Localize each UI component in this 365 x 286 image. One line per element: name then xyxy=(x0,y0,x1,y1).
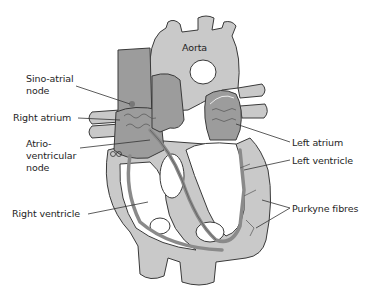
label-atrio-line2: ventricular xyxy=(26,150,76,162)
label-left-atrium: Left atrium xyxy=(292,137,343,149)
pulmonary-vein xyxy=(240,104,267,118)
label-left-ventricle: Left ventricle xyxy=(292,155,353,167)
left-atrium xyxy=(205,90,242,140)
pulmonary-trunk xyxy=(152,74,184,132)
label-atrio-line1: Atrio- xyxy=(26,138,51,150)
aortic-arch-gap xyxy=(190,60,216,84)
label-purkyne-fibres: Purkyne fibres xyxy=(292,203,358,215)
label-atrio-line3: node xyxy=(26,162,49,174)
label-sino-atrial-line1: Sino-atrial xyxy=(26,73,74,85)
label-aorta: Aorta xyxy=(182,42,207,54)
pulmonary-vein xyxy=(238,84,265,98)
label-right-atrium: Right atrium xyxy=(13,112,71,124)
leader-left-atrium xyxy=(236,124,290,142)
label-sino-atrial-line2: node xyxy=(26,85,49,97)
label-right-ventricle: Right ventricle xyxy=(12,208,80,220)
